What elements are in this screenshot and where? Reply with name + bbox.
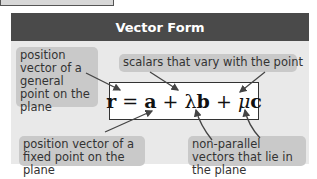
arrows xyxy=(0,0,317,179)
